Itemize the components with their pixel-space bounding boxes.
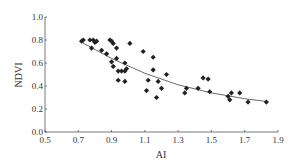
data-point [264, 100, 269, 105]
data-point [206, 77, 211, 82]
y-tick-label: 0.8 [32, 35, 44, 45]
data-point [156, 79, 161, 84]
data-point [159, 86, 164, 91]
data-point [207, 89, 212, 94]
data-point [111, 64, 116, 69]
data-point [104, 51, 109, 56]
data-point [127, 41, 132, 46]
y-tick-label: 0.6 [32, 58, 44, 68]
data-point [229, 90, 234, 95]
x-tick-label: 1.5 [206, 135, 218, 145]
data-point [201, 75, 206, 80]
data-point [245, 100, 250, 105]
x-tick-label: 1.7 [239, 135, 251, 145]
x-tick-label: 1.1 [139, 135, 150, 145]
data-point [114, 45, 119, 50]
axes: 0.50.70.91.11.31.51.71.90.00.20.40.60.81… [32, 12, 284, 145]
data-point [182, 90, 187, 95]
x-axis-label: AI [156, 149, 167, 160]
y-axis-label: NDVI [13, 63, 24, 88]
x-tick-label: 1.9 [272, 135, 284, 145]
x-tick-label: 1.3 [173, 135, 185, 145]
data-point [151, 55, 156, 60]
y-tick-label: 0.4 [32, 81, 44, 91]
data-point [237, 90, 242, 95]
x-tick-label: 0.7 [73, 135, 85, 145]
data-points [79, 37, 269, 104]
data-point [109, 59, 114, 64]
data-point [141, 49, 146, 54]
y-tick-label: 0.2 [32, 104, 43, 114]
y-tick-label: 1.0 [32, 12, 44, 22]
data-point [122, 79, 127, 84]
data-point [164, 72, 169, 77]
data-point [154, 95, 159, 100]
data-point [146, 78, 151, 83]
data-point [89, 45, 94, 50]
scatter-chart: 0.50.70.91.11.31.51.71.90.00.20.40.60.81… [0, 0, 300, 164]
data-point [144, 88, 149, 93]
data-point [151, 67, 156, 72]
data-point [116, 78, 121, 83]
y-tick-label: 0.0 [32, 127, 44, 137]
x-tick-label: 0.9 [106, 135, 118, 145]
